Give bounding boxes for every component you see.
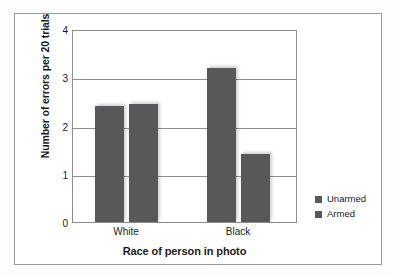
bar-white-armed — [129, 104, 158, 222]
legend-item-armed: Armed — [315, 209, 366, 219]
legend-label-unarmed: Unarmed — [327, 194, 366, 204]
x-axis-label-white: White — [113, 226, 139, 237]
y-axis-title: Number of errors per 20 trials — [39, 0, 51, 186]
y-tick-label-4: 4 — [62, 26, 68, 36]
figure: Number of errors per 20 trials Race of p… — [0, 0, 398, 277]
legend-item-unarmed: Unarmed — [315, 194, 366, 204]
y-tick-label-1: 1 — [62, 171, 68, 181]
bar-black-armed — [241, 154, 270, 222]
gridline-3 — [73, 79, 296, 80]
y-tick-label-3: 3 — [62, 74, 68, 84]
plot-area: 4 3 2 1 0 White Black — [72, 30, 297, 223]
bar-white-unarmed — [95, 106, 124, 222]
x-axis-label-black: Black — [226, 226, 250, 237]
bar-black-unarmed — [207, 68, 236, 222]
x-axis-title: Race of person in photo — [72, 245, 297, 257]
legend: Unarmed Armed — [315, 194, 366, 224]
legend-swatch-icon-unarmed — [315, 196, 322, 203]
y-tick-label-0: 0 — [62, 219, 68, 229]
y-tick-label-2: 2 — [62, 123, 68, 133]
y-axis-title-container: Number of errors per 20 trials — [40, 30, 41, 223]
legend-swatch-icon-armed — [315, 211, 322, 218]
legend-label-armed: Armed — [327, 209, 355, 219]
